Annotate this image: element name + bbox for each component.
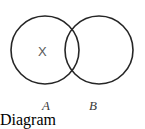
region-marker-x: X xyxy=(38,45,47,58)
venn-diagram-figure: X A B xyxy=(0,0,145,111)
set-label-b: B xyxy=(83,99,103,111)
set-circle-b xyxy=(65,16,133,84)
set-label-a: A xyxy=(36,99,56,111)
venn-diagram-canvas xyxy=(0,0,145,111)
